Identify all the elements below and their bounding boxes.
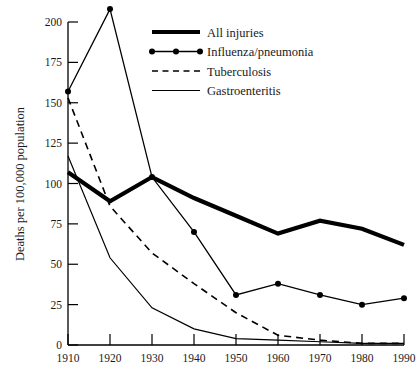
legend-marker (149, 49, 155, 55)
x-tick-labels: 191019201930194019501960197019801990 (57, 352, 416, 364)
chart-page: 0255075100125150175200 Deaths per 100,00… (0, 0, 420, 372)
legend-entry[interactable]: Tuberculosis (152, 65, 271, 79)
data-point-marker (233, 292, 239, 298)
y-tick-label: 150 (45, 97, 63, 109)
y-tick-labels: 0255075100125150175200 (45, 16, 63, 351)
x-tick-label: 1930 (141, 352, 164, 364)
y-tick-label: 50 (51, 258, 63, 270)
x-tick-label: 1920 (99, 352, 122, 364)
legend-entry[interactable]: Gastroenteritis (152, 84, 281, 98)
x-tick-label: 1960 (267, 352, 290, 364)
legend-label: Gastroenteritis (207, 84, 281, 98)
y-tick-label: 100 (45, 178, 63, 190)
data-point-marker (65, 88, 71, 94)
data-point-marker (401, 295, 407, 301)
legend-label: Influenza/pneumonia (207, 45, 314, 59)
x-tick-label: 1940 (183, 352, 206, 364)
y-tick-label: 0 (56, 339, 62, 351)
legend-label: All injuries (207, 26, 264, 40)
y-tick-label: 175 (45, 56, 63, 68)
x-tick-label: 1950 (225, 352, 248, 364)
y-tick-label: 200 (45, 16, 63, 28)
y-axis-title: Deaths per 100,000 population (13, 106, 27, 261)
data-point-marker (359, 302, 365, 308)
series-line (68, 98, 404, 343)
y-tick-marks (68, 22, 78, 345)
series-line (68, 156, 404, 343)
series-gastroenteritis (68, 156, 404, 343)
x-tick-label: 1910 (57, 352, 80, 364)
data-point-marker (317, 292, 323, 298)
x-tick-label: 1980 (351, 352, 374, 364)
data-point-marker (275, 281, 281, 287)
y-tick-label: 25 (51, 299, 63, 311)
legend-entry[interactable]: Influenza/pneumonia (149, 45, 314, 59)
y-tick-label: 75 (51, 218, 63, 230)
legend-marker (197, 49, 203, 55)
series-all-injuries (68, 172, 404, 245)
legend-label: Tuberculosis (207, 65, 271, 79)
legend-entry[interactable]: All injuries (152, 26, 264, 40)
x-tick-label: 1990 (393, 352, 416, 364)
chart-legend: All injuriesInfluenza/pneumoniaTuberculo… (149, 26, 314, 99)
series-tuberculosis (68, 98, 404, 343)
y-axis: 0255075100125150175200 Deaths per 100,00… (13, 16, 78, 351)
line-chart: 0255075100125150175200 Deaths per 100,00… (0, 0, 420, 372)
series-line (68, 172, 404, 245)
data-point-marker (107, 6, 113, 12)
data-point-marker (149, 174, 155, 180)
data-point-marker (191, 229, 197, 235)
legend-marker (173, 49, 179, 55)
y-tick-label: 125 (45, 137, 63, 149)
x-tick-label: 1970 (309, 352, 332, 364)
